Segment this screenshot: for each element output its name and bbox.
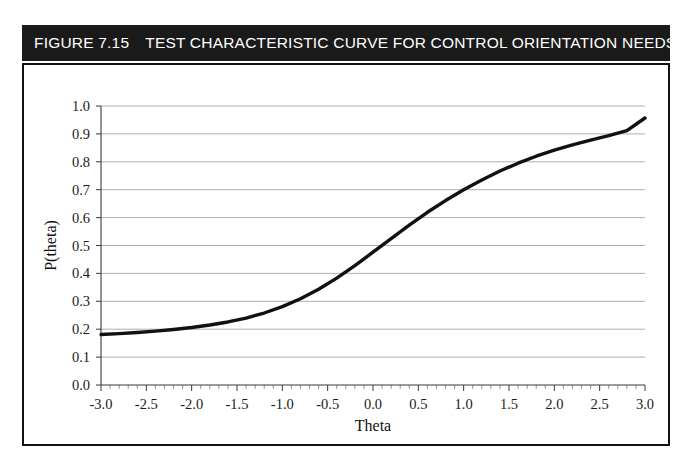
y-tick-label: 0.9 [72, 126, 90, 142]
y-tick-label: 0.1 [72, 349, 90, 365]
x-axis-ticks-group [101, 385, 645, 391]
y-tick-label: 0.2 [72, 321, 90, 337]
y-tick-label: 0.7 [72, 182, 90, 198]
x-tick-label: -1.5 [226, 396, 249, 412]
x-tick-label: -2.5 [135, 396, 158, 412]
x-tick-label: -3.0 [90, 396, 113, 412]
x-tick-label: 2.5 [591, 396, 609, 412]
x-axis-tick-labels: -3.0-2.5-2.0-1.5-1.0-0.50.00.51.01.52.02… [90, 396, 655, 412]
test-characteristic-curve-chart: 0.00.10.20.30.40.50.60.70.80.91.0 -3.0-2… [22, 63, 670, 446]
y-tick-label: 0.5 [72, 238, 90, 254]
figure-title-bar: FIGURE 7.15 TEST CHARACTERISTIC CURVE FO… [22, 25, 670, 61]
y-axis-tick-labels: 0.00.10.20.30.40.50.60.70.80.91.0 [72, 98, 91, 393]
x-tick-label: -2.0 [180, 396, 203, 412]
x-tick-label: -0.5 [316, 396, 339, 412]
y-tick-label: 0.6 [72, 210, 90, 226]
y-axis-ticks-group [96, 106, 101, 385]
gridlines-group [101, 106, 645, 357]
figure-container: FIGURE 7.15 TEST CHARACTERISTIC CURVE FO… [0, 0, 691, 466]
curve-line [101, 118, 645, 335]
y-tick-label: 1.0 [72, 98, 90, 114]
y-tick-label: 0.0 [72, 377, 90, 393]
figure-title-text: TEST CHARACTERISTIC CURVE FOR CONTROL OR… [145, 34, 670, 52]
y-tick-label: 0.3 [72, 293, 90, 309]
x-tick-label: 2.0 [545, 396, 563, 412]
y-tick-label: 0.8 [72, 154, 90, 170]
x-tick-label: 1.5 [500, 396, 518, 412]
x-tick-label: 0.5 [409, 396, 427, 412]
y-tick-label: 0.4 [72, 265, 91, 281]
x-tick-label: 0.0 [364, 396, 382, 412]
x-axis-title: Theta [355, 417, 391, 434]
y-axis-title: P(theta) [42, 220, 60, 271]
figure-number-label: FIGURE 7.15 [34, 34, 129, 52]
x-tick-label: 1.0 [455, 396, 473, 412]
x-tick-label: -1.0 [271, 396, 294, 412]
x-tick-label: 3.0 [636, 396, 654, 412]
